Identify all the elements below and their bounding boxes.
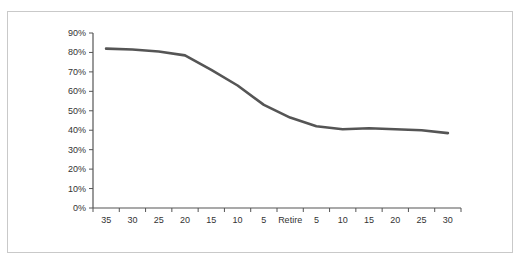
series-line xyxy=(106,49,448,134)
y-tick-label: 70% xyxy=(68,67,86,77)
y-axis: 0%10%20%30%40%50%60%70%80%90% xyxy=(68,28,93,213)
x-tick-label: 20 xyxy=(390,215,400,225)
x-tick-label: 30 xyxy=(443,215,453,225)
x-tick-label: 15 xyxy=(206,215,216,225)
x-axis: 3530252015105Retire51015202530 xyxy=(93,208,461,225)
y-tick-label: 40% xyxy=(68,125,86,135)
y-tick-label: 50% xyxy=(68,106,86,116)
line-chart: 0%10%20%30%40%50%60%70%80%90% 3530252015… xyxy=(0,0,520,262)
y-tick-label: 0% xyxy=(73,203,86,213)
y-tick-label: 90% xyxy=(68,28,86,38)
x-tick-label: 35 xyxy=(101,215,111,225)
x-tick-label: 10 xyxy=(233,215,243,225)
y-tick-label: 10% xyxy=(68,184,86,194)
x-tick-label: 5 xyxy=(261,215,266,225)
x-tick-label: 20 xyxy=(180,215,190,225)
x-tick-label: 15 xyxy=(364,215,374,225)
x-tick-label: 5 xyxy=(314,215,319,225)
x-tick-label: 30 xyxy=(127,215,137,225)
y-tick-label: 20% xyxy=(68,164,86,174)
y-tick-label: 80% xyxy=(68,47,86,57)
y-tick-label: 30% xyxy=(68,145,86,155)
series-lines xyxy=(106,49,448,134)
x-tick-label: 10 xyxy=(338,215,348,225)
x-tick-label: 25 xyxy=(154,215,164,225)
y-tick-label: 60% xyxy=(68,86,86,96)
x-tick-label: 25 xyxy=(417,215,427,225)
x-tick-label: Retire xyxy=(278,215,302,225)
